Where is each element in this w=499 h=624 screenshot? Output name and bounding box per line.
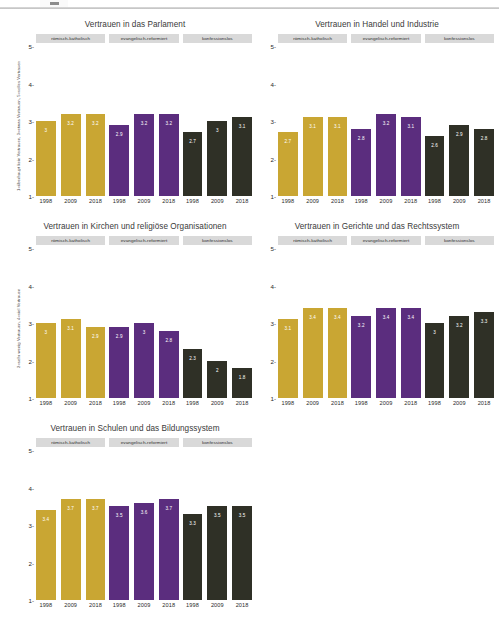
bar[interactable]: 3.5 <box>232 506 252 600</box>
x-axis-tick-label: 2018 <box>86 602 106 608</box>
y-axis-tick: 5- <box>28 245 34 252</box>
bar[interactable]: 3.4 <box>401 308 421 398</box>
x-axis-tick-label: 1998 <box>425 400 445 406</box>
x-axis-tick-label: 2018 <box>232 400 252 406</box>
bar[interactable]: 2.6 <box>425 136 445 196</box>
bar[interactable]: 3.2 <box>351 316 371 399</box>
bar[interactable]: 2.9 <box>109 327 129 398</box>
bar-value-label: 3.2 <box>159 121 179 126</box>
x-axis-tick-label: 2018 <box>86 198 106 204</box>
facet-strip: evangelisch-reformiert <box>109 438 178 447</box>
bar[interactable]: 2.8 <box>159 331 179 399</box>
x-axis-tick-label: 1998 <box>425 198 445 204</box>
bar[interactable]: 3.4 <box>328 308 348 398</box>
x-axis-tick-label: 2009 <box>303 400 323 406</box>
bar[interactable]: 3.2 <box>376 114 396 197</box>
bar-value-label: 3.1 <box>232 124 252 129</box>
bar[interactable]: 3.4 <box>303 308 323 398</box>
facet-strip: konfessionslos <box>425 34 494 43</box>
bar-value-label: 2 <box>207 368 227 373</box>
y-axis-tick: 2- <box>28 559 34 566</box>
bar[interactable]: 2.3 <box>183 349 203 398</box>
bar[interactable]: 3.1 <box>61 319 81 398</box>
facet-strip: römisch-katholisch <box>36 438 105 447</box>
x-axis-tick-label: 1998 <box>351 400 371 406</box>
bar-value-label: 3 <box>36 330 56 335</box>
bar-group: 33.23.3 <box>425 248 494 398</box>
x-axis-tick-label: 2018 <box>86 400 106 406</box>
x-axis-facet: 199820092018 <box>183 400 252 406</box>
bar[interactable]: 2.8 <box>351 129 371 197</box>
y-axis-ticks: 5-4-3-2-1- <box>258 46 276 196</box>
facet-strip-label: evangelisch-reformiert <box>121 238 168 243</box>
x-axis-tick-label: 2018 <box>159 602 179 608</box>
x-axis-tick-label: 2009 <box>134 198 154 204</box>
bar[interactable]: 3.2 <box>449 316 469 399</box>
facet-body-row: 33.12.92.932.82.321.8 <box>36 248 252 398</box>
bar[interactable]: 3.3 <box>474 312 494 398</box>
bar[interactable]: 3.6 <box>134 503 154 601</box>
bar[interactable]: 3 <box>207 121 227 196</box>
y-axis-tick: 1- <box>28 395 34 402</box>
facet-strip: römisch-katholisch <box>278 34 347 43</box>
bar[interactable]: 3 <box>36 323 56 398</box>
page-header-rule <box>0 7 499 9</box>
bar[interactable]: 3.2 <box>61 114 81 197</box>
bar[interactable]: 3.7 <box>86 499 106 600</box>
x-axis-tick-label: 2009 <box>449 400 469 406</box>
bar[interactable]: 3.2 <box>159 114 179 197</box>
bar[interactable]: 3.2 <box>134 114 154 197</box>
bar[interactable]: 3.7 <box>61 499 81 600</box>
bar[interactable]: 3.2 <box>86 114 106 197</box>
bar[interactable]: 3.4 <box>376 308 396 398</box>
bar[interactable]: 2.7 <box>278 132 298 196</box>
bar[interactable]: 2.8 <box>474 129 494 197</box>
facet-strip-row: römisch-katholischevangelisch-reformiert… <box>278 236 494 245</box>
bar-value-label: 3.1 <box>328 124 348 129</box>
bar-value-label: 3 <box>207 128 227 133</box>
bar[interactable]: 1.8 <box>232 368 252 398</box>
bar-value-label: 2.8 <box>159 338 179 343</box>
bar[interactable]: 3.3 <box>183 514 203 600</box>
bar-value-label: 3 <box>36 128 56 133</box>
bar[interactable]: 2.7 <box>183 132 203 196</box>
bar[interactable]: 2.9 <box>86 327 106 398</box>
bar[interactable]: 3.1 <box>232 117 252 196</box>
bar[interactable]: 2 <box>207 361 227 399</box>
x-axis-tick-label: 2009 <box>61 400 81 406</box>
bar[interactable]: 3.7 <box>159 499 179 600</box>
x-axis-tick-label: 2018 <box>159 198 179 204</box>
y-axis-tick: 3- <box>28 320 34 327</box>
facet-body-row: 2.73.13.12.83.23.12.62.92.8 <box>278 46 494 196</box>
chart-panel-handel: Vertrauen in Handel und Industrierömisch… <box>258 20 496 220</box>
facet-body: 33.23.3 <box>425 248 494 398</box>
bar[interactable]: 2.9 <box>449 125 469 196</box>
x-axis-tick-label: 2018 <box>401 400 421 406</box>
y-axis-tick: 5- <box>270 43 276 50</box>
bar[interactable]: 3 <box>36 121 56 196</box>
bar[interactable]: 3.1 <box>278 319 298 398</box>
facet-strip-row: römisch-katholischevangelisch-reformiert… <box>36 236 252 245</box>
x-axis-tick-label: 1998 <box>183 198 203 204</box>
bar[interactable]: 3.1 <box>328 117 348 196</box>
bar[interactable]: 3.4 <box>36 510 56 600</box>
x-axis-facet: 199820092018 <box>278 198 347 204</box>
x-axis-facet: 199820092018 <box>183 198 252 204</box>
bar[interactable]: 3.5 <box>109 506 129 600</box>
bar[interactable]: 2.9 <box>109 125 129 196</box>
bar[interactable]: 3.5 <box>207 506 227 600</box>
facet-strip-label: römisch-katholisch <box>51 36 90 41</box>
bar-value-label: 3.1 <box>303 124 323 129</box>
bar-value-label: 3.4 <box>328 315 348 320</box>
x-axis-row: 199820092018199820092018199820092018 <box>36 400 252 406</box>
facet-strip-row: römisch-katholischevangelisch-reformiert… <box>36 438 252 447</box>
bar[interactable]: 3.1 <box>303 117 323 196</box>
bar[interactable]: 3 <box>134 323 154 398</box>
bar[interactable]: 3 <box>425 323 445 398</box>
y-axis-tick: 2- <box>270 357 276 364</box>
x-axis-tick-label: 2018 <box>401 198 421 204</box>
bar[interactable]: 3.1 <box>401 117 421 196</box>
bar-group: 2.733.1 <box>183 46 252 196</box>
x-axis-tick-label: 1998 <box>183 602 203 608</box>
bar-value-label: 2.6 <box>425 143 445 148</box>
